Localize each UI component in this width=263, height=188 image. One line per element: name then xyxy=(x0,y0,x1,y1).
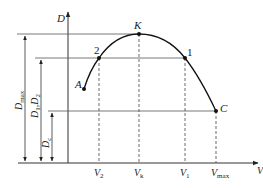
point-2 xyxy=(97,56,101,60)
svg-text:Vk: Vk xyxy=(134,167,144,180)
svg-text:V2: V2 xyxy=(94,167,104,180)
label-2: 2 xyxy=(94,44,100,56)
label-c: C xyxy=(220,102,228,114)
label-dc: Dc xyxy=(40,138,53,149)
tick-vk: Vk xyxy=(134,167,144,180)
tick-vmax: Vmax xyxy=(211,167,230,180)
svg-text:D1,D2: D1,D2 xyxy=(29,94,42,119)
label-a: A xyxy=(74,78,82,90)
label-1: 1 xyxy=(187,46,193,58)
svg-text:V1: V1 xyxy=(180,167,190,180)
performance-curve xyxy=(84,34,216,111)
tick-v2: V2 xyxy=(94,167,104,180)
label-k: K xyxy=(133,19,142,31)
svg-text:Dc: Dc xyxy=(40,138,53,149)
x-axis-label: V xyxy=(257,165,263,176)
svg-text:Dmax: Dmax xyxy=(13,90,26,111)
diagram-canvas: A 2 K 1 C D V V2 Vk V1 Vmax Dmax D1,D2 D… xyxy=(0,0,263,188)
point-a xyxy=(82,87,86,91)
label-d1-d2: D1,D2 xyxy=(29,94,42,119)
tick-v1: V1 xyxy=(180,167,190,180)
point-k xyxy=(137,32,141,36)
point-c xyxy=(214,109,218,113)
label-dmax: Dmax xyxy=(13,90,26,111)
svg-text:Vmax: Vmax xyxy=(211,167,230,180)
y-axis-label: D xyxy=(56,12,65,24)
